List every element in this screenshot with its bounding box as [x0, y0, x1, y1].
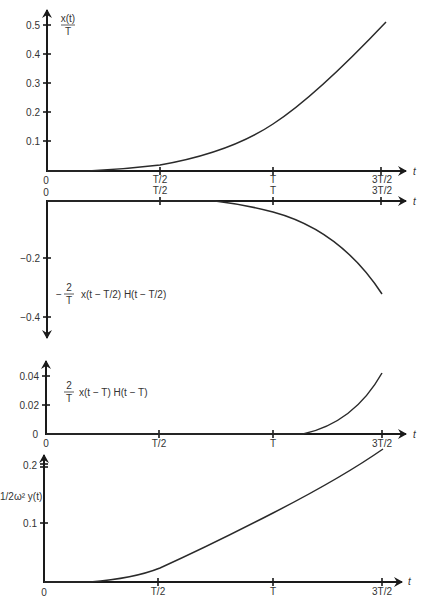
plot-2-x-label: t	[413, 196, 417, 207]
plot-3-annotation: 2 T x(t − T) H(t − T)	[64, 380, 148, 404]
svg-text:x(t − T/2) H(t − T/2): x(t − T/2) H(t − T/2)	[81, 289, 166, 300]
plot-4-ytick-label: 0.2	[23, 460, 37, 471]
plot-4-y-label: 1/2ω² y(t)	[0, 491, 42, 502]
plot-2-xtick-T: T	[270, 185, 276, 196]
plot-2-shifted-negative: 0 T/2 T 3T/2 t −0.2 −0.4 − 2 T x(t − T/2…	[20, 185, 417, 338]
plot-4-xtick-zero: 0	[41, 587, 47, 598]
plot-3-xtick-zero: 0	[43, 438, 49, 449]
plot-4-xtick-half: T/2	[151, 586, 166, 597]
plot-4-ytick-label: 0.1	[23, 518, 37, 529]
plot-1-y-label-num: x(t)	[61, 13, 75, 24]
plot-1-ytick-label: 0.4	[26, 49, 40, 60]
plot-4-xtick-T: T	[270, 586, 276, 597]
plot-3-curve	[46, 373, 382, 434]
plot-2-ytick-label: −0.2	[20, 253, 40, 264]
plot-3-x-label: t	[413, 429, 417, 440]
plot-4-y-response: 0.1 0.2 1/2ω² y(t) 0 T/2 T 3T/2 t	[0, 449, 412, 598]
plot-1-x-over-T: 0.1 0.2 0.3 0.4 0.5 0 T/2 T 3T/2 t x(t) …	[26, 10, 417, 186]
svg-text:T: T	[66, 295, 72, 306]
plot-3-ytick-label: 0.04	[20, 371, 40, 382]
plot-1-ytick-label: 0.3	[26, 78, 40, 89]
plot-1-ytick-label: 0.2	[26, 107, 40, 118]
plot-2-xtick-zero: 0	[43, 187, 49, 198]
plot-1-x-label: t	[413, 166, 417, 177]
plot-2-curve	[47, 201, 382, 294]
figure: 0.1 0.2 0.3 0.4 0.5 0 T/2 T 3T/2 t x(t) …	[0, 0, 423, 604]
plot-4-curve	[44, 449, 383, 582]
plot-4-x-label: t	[408, 576, 412, 587]
plot-1-ytick-label: 0.5	[26, 20, 40, 31]
svg-text:2: 2	[66, 380, 72, 391]
plot-1-ytick-label: 0.1	[26, 136, 40, 147]
plot-1-xtick-zero: 0	[43, 175, 49, 186]
plot-4-xtick-3half: 3T/2	[372, 586, 392, 597]
plot-1-y-label-den: T	[65, 26, 71, 37]
plot-3-xtick-T: T	[270, 438, 276, 449]
svg-text:x(t − T) H(t − T): x(t − T) H(t − T)	[79, 387, 148, 398]
plot-2-xtick-half: T/2	[153, 185, 168, 196]
plot-1-xtick-half: T/2	[153, 174, 168, 185]
plot-3-xtick-3half: 3T/2	[372, 438, 392, 449]
plot-1-xtick-T: T	[270, 174, 276, 185]
plot-2-annotation: − 2 T x(t − T/2) H(t − T/2)	[56, 282, 166, 306]
plot-3-ytick-label: 0.02	[20, 400, 40, 411]
plot-3-ytick-label: 0	[32, 429, 38, 440]
plot-2-xtick-3half: 3T/2	[372, 185, 392, 196]
plot-1-curve	[47, 22, 386, 171]
svg-text:T: T	[66, 393, 72, 404]
plot-1-xtick-3half: 3T/2	[372, 174, 392, 185]
plot-3-xtick-half: T/2	[152, 438, 167, 449]
plot-2-ytick-label: −0.4	[20, 312, 40, 323]
plot-3-shifted-positive: 0 0.02 0.04 0 T/2 T 3T/2 t 2 T x(t − T) …	[20, 361, 417, 449]
svg-text:2: 2	[66, 282, 72, 293]
svg-text:−: −	[56, 289, 62, 300]
